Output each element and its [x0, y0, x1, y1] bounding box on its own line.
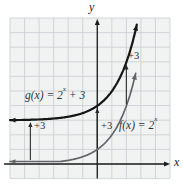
shift-label-middle: +3 — [101, 121, 112, 132]
f-function-label-base: f(x) = 2 — [119, 119, 154, 131]
x-axis-label: x — [174, 156, 179, 168]
f-function-label: f(x) = 2x — [119, 119, 157, 131]
g-function-label-shift: + 3 — [66, 89, 85, 101]
g-function-label-exponent: x — [63, 85, 66, 93]
g-function-label: g(x) = 2x + 3 — [25, 89, 85, 101]
shift-label-left: +3 — [34, 121, 45, 132]
f-function-label-exponent: x — [154, 115, 157, 123]
y-axis-label: y — [89, 1, 94, 13]
g-function-label-base: g(x) = 2 — [25, 89, 63, 101]
exponential-shift-figure: y x g(x) = 2x + 3 f(x) = 2x +3 +3 +3 — [0, 0, 183, 193]
shift-label-right: +3 — [128, 51, 139, 62]
